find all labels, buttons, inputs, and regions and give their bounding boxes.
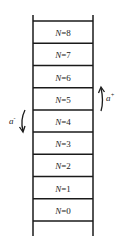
ladder-diagram: N=8N=7N=6N=5N=4N=3N=2N=1N=0 a- a+	[0, 0, 123, 248]
up-arrow-icon	[101, 88, 103, 111]
level-label: N=6	[54, 73, 71, 83]
level-label: N=8	[54, 28, 71, 38]
level-label: N=3	[54, 139, 71, 149]
level-label: N=4	[54, 117, 71, 127]
lowering-operator-label: a-	[9, 115, 16, 126]
level-label: N=1	[54, 184, 71, 194]
level-label: N=5	[54, 95, 71, 105]
level-label: N=7	[54, 50, 71, 60]
level-label: N=2	[54, 161, 71, 171]
lowering-operator: a-	[9, 110, 25, 132]
level-label: N=0	[54, 206, 71, 216]
raising-operator: a+	[99, 87, 115, 111]
raising-operator-label: a+	[106, 92, 115, 103]
